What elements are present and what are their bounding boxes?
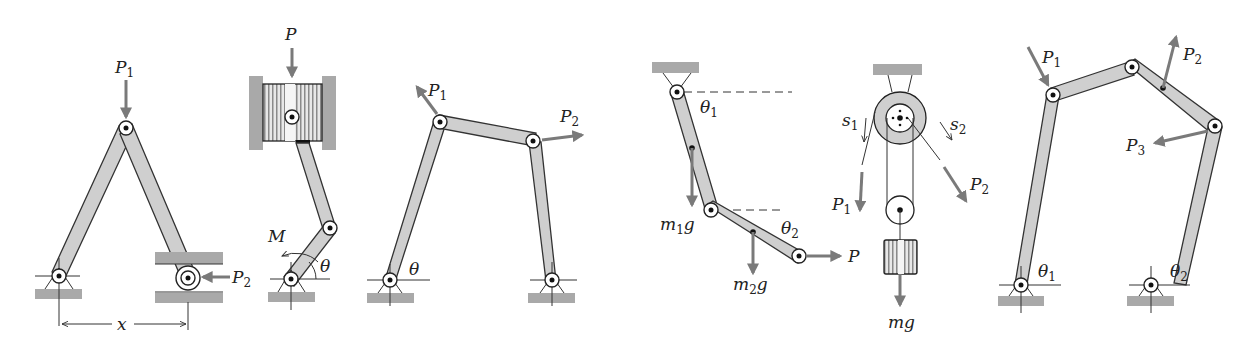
ground-support-left (35, 258, 82, 326)
label-p2: P2 (231, 267, 251, 290)
pin-joint (526, 134, 540, 148)
pin-joint (1144, 278, 1158, 292)
label-s1: s1 (842, 110, 858, 133)
force-arrow-p2 (944, 167, 966, 201)
panel-c-four-bar: P1 P2 θ (367, 80, 582, 306)
label-p2: P2 (1182, 44, 1202, 67)
label-p: P (284, 24, 297, 44)
link-4 (1174, 123, 1222, 285)
pin-joint (1125, 60, 1139, 74)
mechanisms-figure: P1 P2 x (0, 0, 1254, 350)
force-arrow-p2 (542, 135, 582, 140)
dimension-x: x (62, 302, 188, 334)
label-theta: θ (320, 256, 330, 276)
pin-joint (1014, 278, 1028, 292)
pin-joint (545, 273, 559, 287)
pin-joint (383, 273, 397, 287)
label-p1: P1 (114, 57, 134, 80)
panel-a-aframe: P1 P2 x (35, 57, 251, 334)
panel-f-five-bar: P1 P2 P3 θ1 θ2 (998, 37, 1222, 313)
s1-arrow (864, 118, 866, 142)
pin-joint (323, 221, 337, 235)
link-3 (1127, 59, 1218, 133)
link-1 (1015, 94, 1059, 284)
force-arrow-p1 (860, 172, 862, 210)
panel-b-piston-crank: P M θ (249, 24, 337, 310)
label-p2: P2 (559, 106, 579, 129)
link-left (385, 121, 446, 282)
label-s2: s2 (950, 114, 966, 137)
pin-joint (181, 271, 195, 285)
label-p1: P1 (831, 194, 851, 217)
pin-joint (285, 110, 299, 124)
force-arrow-p3 (1155, 131, 1208, 143)
pin-joint (792, 249, 806, 263)
label-theta: θ (409, 259, 419, 279)
link-left (52, 126, 131, 280)
ceiling-support (652, 62, 699, 73)
pin-joint (704, 203, 718, 217)
pin-joint (1046, 88, 1060, 102)
ceiling-support (873, 64, 922, 75)
label-p3: P3 (1125, 135, 1145, 158)
label-theta1: θ1 (700, 97, 718, 120)
label-mg: mg (888, 312, 915, 332)
panel-e-pulley: mg s1 s2 P1 P2 (831, 64, 989, 332)
label-p: P (847, 246, 860, 266)
force-arrow-p2 (1163, 37, 1176, 88)
pin-joint (670, 85, 684, 99)
link-right (529, 142, 556, 281)
link-2 (1051, 62, 1134, 101)
label-m: M (267, 226, 286, 246)
pin-joint (52, 269, 66, 283)
hanging-mass (884, 240, 917, 274)
label-p2: P2 (969, 174, 989, 197)
connecting-rod (296, 143, 335, 229)
label-m1g: m1g (660, 214, 695, 237)
label-theta2: θ2 (781, 218, 799, 241)
pin-joint (284, 272, 298, 286)
label-p1: P1 (1041, 47, 1061, 70)
label-m2g: m2g (733, 274, 768, 297)
pin-joint (433, 115, 447, 129)
pin-joint (1208, 119, 1222, 133)
label-theta1: θ1 (1038, 261, 1056, 284)
link-top (438, 115, 536, 146)
label-x: x (117, 314, 127, 334)
label-p1: P1 (427, 80, 447, 103)
panel-d-double-pendulum: θ1 θ2 m1g m2g P (652, 62, 860, 297)
upper-pulley (874, 92, 926, 144)
pin-joint (119, 121, 133, 135)
